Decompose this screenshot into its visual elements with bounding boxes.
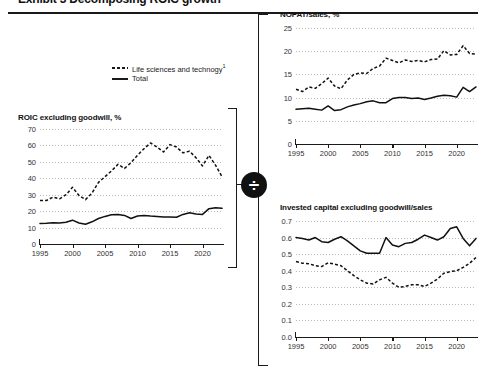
x-axis-tick — [457, 338, 458, 341]
x-axis — [40, 244, 224, 245]
series-line-life-sciences — [296, 46, 476, 92]
y-axis-tick-label: 25 — [284, 24, 292, 33]
y-axis-tick-label: 20 — [284, 47, 292, 56]
series-layer — [296, 221, 476, 337]
y-axis-tick-label: 30 — [28, 190, 36, 199]
x-axis-tick-label: 2000 — [320, 149, 337, 158]
x-axis-tick — [328, 145, 329, 148]
x-axis-tick-label: 2010 — [129, 249, 146, 258]
y-axis-tick-label: 60 — [28, 141, 36, 150]
y-axis-tick-label: 70 — [28, 125, 36, 134]
x-axis-tick-label: 2015 — [416, 149, 433, 158]
y-axis-tick-label: 0.6 — [282, 233, 292, 242]
x-axis-tick — [203, 245, 204, 248]
x-axis-tick — [105, 245, 106, 248]
x-axis-tick — [296, 338, 297, 341]
x-axis-tick — [425, 338, 426, 341]
chart-title-roic: ROIC excluding goodwill, % — [18, 113, 121, 122]
y-axis-tick-label: 40 — [28, 174, 36, 183]
x-axis-tick — [360, 338, 361, 341]
chart-invested-capital-over-sales: Invested capital excluding goodwill/sale… — [268, 203, 486, 368]
x-axis — [296, 337, 478, 338]
x-axis-tick-label: 2005 — [352, 149, 369, 158]
x-axis-tick — [73, 245, 74, 248]
x-axis-tick-label: 2010 — [384, 342, 401, 351]
y-axis-tick-label: 10 — [28, 223, 36, 232]
y-axis-tick-label: 0.4 — [282, 266, 292, 275]
legend-item-total: Total — [112, 73, 226, 84]
series-line-total — [40, 208, 222, 224]
dashed-line-swatch-icon — [112, 63, 128, 72]
x-axis — [296, 144, 478, 145]
x-axis-tick-label: 2000 — [320, 342, 337, 351]
x-axis-tick-label: 1995 — [288, 342, 305, 351]
y-axis-tick-label: 15 — [284, 70, 292, 79]
x-axis-tick-label: 2005 — [352, 342, 369, 351]
x-axis-tick — [296, 145, 297, 148]
exhibit-title: Exhibit 3 Decomposing ROIC growth — [18, 0, 318, 10]
series-line-life-sciences — [296, 257, 476, 287]
legend-footnote-marker: 1 — [222, 63, 225, 69]
y-axis-tick-label: 0.0 — [282, 333, 292, 342]
y-axis-tick-label: 0.7 — [282, 217, 292, 226]
y-axis-tick-label: 0.1 — [282, 316, 292, 325]
plot-area-roic: 010203040506070199520002005201020152020 — [40, 129, 222, 244]
y-axis-tick-label: 0.2 — [282, 299, 292, 308]
divide-icon: ÷ — [241, 172, 267, 198]
solid-line-swatch-icon — [112, 74, 128, 83]
x-axis-tick — [360, 145, 361, 148]
x-axis-tick-label: 2015 — [162, 249, 179, 258]
legend-label-total: Total — [132, 73, 148, 84]
series-layer — [296, 28, 476, 144]
x-axis-tick — [392, 145, 393, 148]
series-line-life-sciences — [40, 143, 222, 200]
chart-title-nopat: NOPAT/sales, % — [280, 10, 339, 19]
y-axis-tick-label: 20 — [28, 207, 36, 216]
x-axis-tick — [392, 338, 393, 341]
y-axis-tick-label: 0.5 — [282, 250, 292, 259]
x-axis-tick — [138, 245, 139, 248]
x-axis-tick — [40, 245, 41, 248]
chart-roic-excluding-goodwill: ROIC excluding goodwill, % 0102030405060… — [18, 113, 228, 263]
bracket-left-numerator — [228, 108, 238, 268]
chart-nopat-over-sales: NOPAT/sales, % 0510152025199520002005201… — [268, 10, 486, 175]
y-axis-tick-label: 10 — [284, 93, 292, 102]
chart-title-invested-capital: Invested capital excluding goodwill/sale… — [280, 203, 432, 212]
y-axis-tick-label: 50 — [28, 157, 36, 166]
x-axis-tick-label: 2010 — [384, 149, 401, 158]
y-axis-tick-label: 5 — [288, 116, 292, 125]
series-layer — [40, 129, 222, 244]
legend-label-life-sciences: Life sciences and technogy — [132, 64, 222, 73]
x-axis-tick-label: 2020 — [448, 342, 465, 351]
series-line-total — [296, 87, 476, 111]
x-axis-tick — [170, 245, 171, 248]
x-axis-tick-label: 1995 — [288, 149, 305, 158]
y-axis-tick-label: 0 — [32, 240, 36, 249]
x-axis-tick-label: 1995 — [32, 249, 49, 258]
plot-area-invested-capital: 0.00.10.20.30.40.50.60.71995200020052010… — [296, 221, 476, 337]
x-axis-tick-label: 2005 — [97, 249, 114, 258]
x-axis-tick-label: 2000 — [64, 249, 81, 258]
x-axis-tick — [457, 145, 458, 148]
plot-area-nopat: 0510152025199520002005201020152020 — [296, 28, 476, 144]
y-axis-tick-label: 0 — [288, 140, 292, 149]
series-line-total — [296, 227, 476, 254]
x-axis-tick — [425, 145, 426, 148]
y-axis-tick-label: 0.3 — [282, 283, 292, 292]
x-axis-tick — [328, 338, 329, 341]
legend-item-life-sciences: Life sciences and technogy1 — [112, 62, 226, 73]
x-axis-tick-label: 2020 — [194, 249, 211, 258]
x-axis-tick-label: 2015 — [416, 342, 433, 351]
x-axis-tick-label: 2020 — [448, 149, 465, 158]
exhibit-figure: Exhibit 3 Decomposing ROIC growth Life s… — [0, 0, 496, 387]
legend: Life sciences and technogy1 Total — [112, 62, 226, 84]
